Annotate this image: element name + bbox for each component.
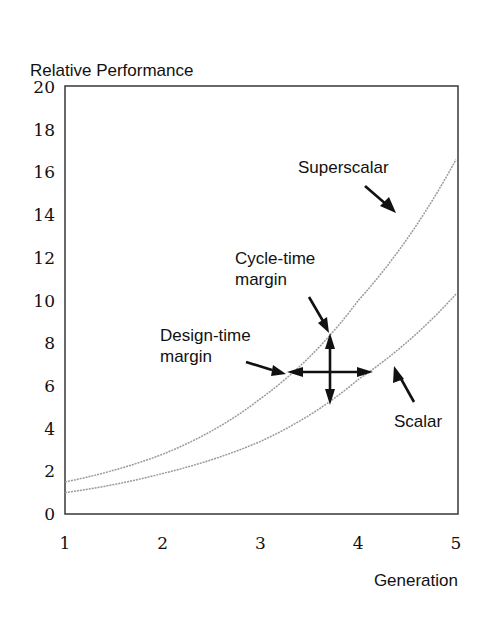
y-tick-label: 14 xyxy=(33,205,55,225)
scalar-label: Scalar xyxy=(394,412,443,431)
scalar-arrow-icon xyxy=(393,366,414,402)
x-axis-ticks: 12345 xyxy=(60,533,462,553)
cycle-time-label-line2: margin xyxy=(235,270,287,289)
x-tick-label: 3 xyxy=(255,533,266,553)
performance-chart: Relative Performance 02468101214161820 1… xyxy=(0,0,483,629)
superscalar-label: Superscalar xyxy=(298,158,389,177)
y-tick-label: 2 xyxy=(44,461,55,481)
design-time-label-line2: margin xyxy=(160,347,212,366)
x-tick-label: 2 xyxy=(157,533,168,553)
plot-area xyxy=(65,86,458,514)
superscalar-curve xyxy=(65,160,456,482)
x-tick-label: 5 xyxy=(451,533,462,553)
scalar-curve xyxy=(65,294,456,493)
x-axis-title: Generation xyxy=(374,571,458,590)
y-tick-label: 10 xyxy=(33,291,55,311)
cycle-time-pointer-arrow-icon xyxy=(309,297,329,333)
y-axis-ticks: 02468101214161820 xyxy=(33,77,55,524)
y-tick-label: 16 xyxy=(33,162,55,182)
superscalar-arrow-icon xyxy=(365,186,396,213)
y-tick-label: 8 xyxy=(44,333,55,353)
x-tick-label: 4 xyxy=(353,533,364,553)
y-tick-label: 12 xyxy=(33,248,55,268)
y-tick-label: 4 xyxy=(44,419,55,439)
y-tick-label: 0 xyxy=(44,504,55,524)
design-time-label-line1: Design-time xyxy=(160,326,251,345)
design-time-pointer-arrow-icon xyxy=(246,362,286,376)
y-tick-label: 20 xyxy=(33,77,55,97)
x-tick-label: 1 xyxy=(60,533,71,553)
y-tick-label: 6 xyxy=(44,376,55,396)
cycle-time-margin-double-arrow-icon xyxy=(325,333,335,405)
cycle-time-label-line1: Cycle-time xyxy=(235,249,315,268)
y-tick-label: 18 xyxy=(33,120,55,140)
